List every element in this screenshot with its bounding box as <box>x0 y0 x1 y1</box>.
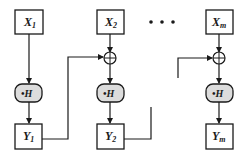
xor-combiner-2 <box>104 52 116 64</box>
svg-text:•H: •H <box>212 88 225 99</box>
feedback-into-xorm <box>178 58 212 78</box>
column-1: X1 •H Y1 <box>15 10 103 149</box>
feedback-y1-to-xor2 <box>42 57 103 139</box>
svg-text:•H: •H <box>21 88 34 99</box>
column-m: Xm •H Ym <box>178 10 233 149</box>
column-2: X2 •H Y2 <box>97 10 151 149</box>
chained-hash-diagram: X1 •H Y1 X2 •H Y2 Xm <box>0 0 249 158</box>
svg-text:•H: •H <box>103 88 116 99</box>
xor-combiner-m <box>213 52 225 64</box>
ellipsis-dots <box>149 20 175 24</box>
feedback-y2-continues <box>124 107 151 139</box>
